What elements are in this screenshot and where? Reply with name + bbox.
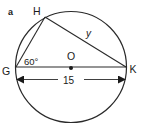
chord-hk: [45, 17, 126, 67]
part-label: a: [8, 7, 14, 17]
point-label-h: H: [33, 5, 41, 17]
point-label-g: G: [2, 65, 10, 77]
diameter-length-label: 15: [63, 75, 75, 86]
point-label-k: K: [130, 63, 137, 75]
side-label-y: y: [85, 28, 92, 39]
point-label-o: O: [67, 50, 75, 62]
geometry-diagram: a H G K O 60° y 15: [0, 0, 147, 131]
angle-label: 60°: [24, 56, 39, 67]
diagram-canvas: a H G K O 60° y 15: [0, 0, 147, 131]
center-point-o: [69, 66, 73, 70]
